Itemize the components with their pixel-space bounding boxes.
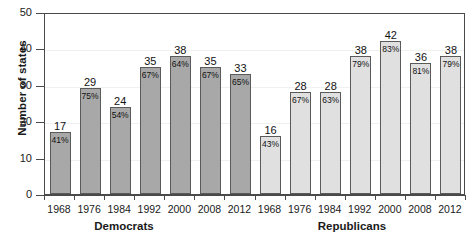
- bar-value-label: 42: [371, 30, 411, 41]
- x-axis-tick: [285, 195, 286, 200]
- bar-value-label: 38: [431, 45, 469, 56]
- y-axis-tick-label: 20: [0, 115, 32, 127]
- bar-percent-label: 75%: [81, 92, 100, 101]
- bar: 63%: [320, 92, 341, 194]
- bar-percent-label: 83%: [381, 45, 400, 54]
- bar: 65%: [230, 74, 251, 194]
- x-axis-tick: [315, 195, 316, 200]
- bar-percent-label: 67%: [201, 71, 220, 80]
- bar-percent-label: 81%: [411, 67, 430, 76]
- x-axis-tick-label: 2012: [430, 203, 469, 215]
- bar: 75%: [80, 88, 101, 194]
- bar-percent-label: 63%: [321, 96, 340, 105]
- bar-value-label: 16: [251, 125, 291, 136]
- y-axis-tick: [36, 49, 44, 50]
- y-axis-tick-label: 0: [0, 188, 32, 200]
- x-axis-tick: [465, 195, 466, 200]
- bar-percent-label: 79%: [441, 60, 460, 69]
- bar-percent-label: 67%: [141, 71, 160, 80]
- y-axis-tick-label: 30: [0, 79, 32, 91]
- bar-value-label: 38: [160, 45, 200, 56]
- bar-value-label: 35: [130, 56, 170, 67]
- x-axis-tick: [375, 195, 376, 200]
- y-axis-tick-label: 10: [0, 152, 32, 164]
- y-axis-tick: [36, 13, 44, 14]
- x-axis-line: [36, 195, 465, 196]
- y-axis-tick: [36, 86, 44, 87]
- y-axis-tick: [36, 159, 44, 160]
- bar: 67%: [290, 92, 311, 194]
- bar-percent-label: 54%: [111, 111, 130, 120]
- bar-value-label: 24: [100, 96, 140, 107]
- y-axis-tick: [36, 122, 44, 123]
- bar-percent-label: 67%: [291, 96, 310, 105]
- bar-chart: Number of states 41%1775%2954%2467%3564%…: [0, 0, 469, 243]
- x-axis-tick: [104, 195, 105, 200]
- x-axis-tick: [405, 195, 406, 200]
- x-axis-tick: [224, 195, 225, 200]
- x-axis-tick: [44, 195, 45, 200]
- bar: 67%: [200, 67, 221, 194]
- x-axis-tick: [164, 195, 165, 200]
- group-label-democrats: Democrats: [44, 220, 204, 232]
- y-axis-tick-label: 40: [0, 42, 32, 54]
- bar: 67%: [140, 67, 161, 194]
- bar-value-label: 33: [220, 63, 260, 74]
- bar-percent-label: 79%: [351, 60, 370, 69]
- x-axis-tick: [74, 195, 75, 200]
- bar-percent-label: 65%: [231, 78, 250, 87]
- bar: 81%: [410, 63, 431, 194]
- y-axis-tick-label: 50: [0, 6, 32, 18]
- x-axis-tick: [435, 195, 436, 200]
- bar-value-label: 29: [70, 77, 110, 88]
- bar: 54%: [110, 107, 131, 194]
- plot-area: 41%1775%2954%2467%3564%3867%3565%3343%16…: [44, 13, 465, 195]
- bar-percent-label: 41%: [51, 136, 70, 145]
- bar-percent-label: 43%: [261, 140, 280, 149]
- bar-value-label: 28: [311, 81, 351, 92]
- bar-percent-label: 64%: [171, 60, 190, 69]
- x-axis-tick: [134, 195, 135, 200]
- bar: 64%: [170, 56, 191, 194]
- x-axis-tick: [194, 195, 195, 200]
- bar: 83%: [380, 41, 401, 194]
- bar: 79%: [440, 56, 461, 194]
- bar: 41%: [50, 132, 71, 194]
- bar: 79%: [350, 56, 371, 194]
- x-axis-tick: [345, 195, 346, 200]
- bar-value-label: 38: [341, 45, 381, 56]
- bar-value-label: 17: [40, 121, 80, 132]
- x-axis-tick: [255, 195, 256, 200]
- bar: 43%: [260, 136, 281, 194]
- group-label-republicans: Republicans: [272, 220, 432, 232]
